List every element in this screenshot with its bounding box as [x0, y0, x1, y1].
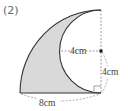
vertical-radius-label: 4cm	[102, 67, 119, 77]
geometry-figure: (2) 4cm 4cm 8cm	[0, 0, 128, 111]
base-length-label: 8cm	[39, 98, 56, 108]
inner-radius-label: 4cm	[70, 46, 87, 56]
base-dimension-arc	[21, 94, 100, 101]
right-angle-marker	[94, 86, 101, 93]
problem-number: (2)	[3, 4, 19, 17]
